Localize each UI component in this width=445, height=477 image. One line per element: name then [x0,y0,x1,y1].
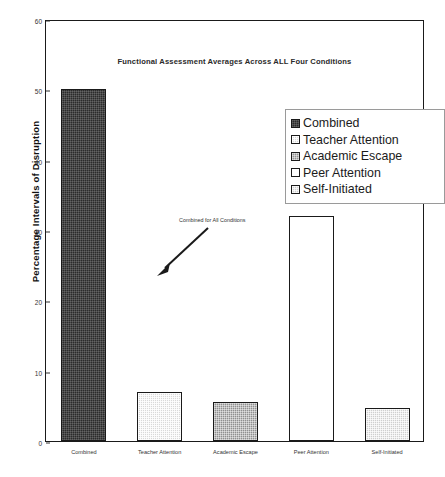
legend-item: Academic Escape [291,148,438,165]
plot-area: Functional Assessment Averages Across AL… [45,20,424,442]
legend-swatch-icon [291,185,300,194]
bar-teacher-attention [137,392,182,441]
legend-item-label: Peer Attention [303,167,381,179]
bar-combined [61,89,106,441]
y-axis-title: Percentage Intervals of Disruption [30,107,41,297]
y-axis-tick-label: 30 [35,229,46,236]
y-axis-tick-label: 0 [38,440,46,447]
y-axis-tick-label: 10 [35,369,46,376]
legend-item: Teacher Attention [291,132,438,149]
legend-item: Self-Initiated [291,181,438,198]
x-axis-tick-label: Teacher Attention [138,443,181,455]
legend-item-label: Teacher Attention [303,134,399,146]
y-axis-tick-label: 60 [35,18,46,25]
bar-academic-escape [213,402,258,441]
y-axis-tick-label: 40 [35,158,46,165]
legend-item: Peer Attention [291,165,438,182]
chart-legend: CombinedTeacher AttentionAcademic Escape… [285,109,445,204]
legend-item-label: Combined [303,117,359,129]
annotation-label: Combined for All Conditions [179,217,246,223]
y-axis-tick-label: 50 [35,88,46,95]
legend-swatch-icon [291,168,300,177]
legend-swatch-icon [291,152,300,161]
y-axis-tick-mark [46,443,50,444]
x-axis-tick-label: Combined [71,443,97,455]
legend-item: Combined [291,115,438,132]
legend-swatch-icon [291,119,300,128]
bar-series: CombinedTeacher AttentionAcademic Escape… [46,21,423,441]
legend-swatch-icon [291,135,300,144]
x-axis-tick-label: Peer Attention [294,443,329,455]
bar-self-initiated [365,408,410,441]
x-axis-tick-label: Academic Escape [213,443,258,455]
x-axis-tick-label: Self-Initiated [372,443,403,455]
legend-item-label: Academic Escape [303,150,402,162]
y-axis-tick-label: 20 [35,299,46,306]
legend-item-label: Self-Initiated [303,183,372,195]
bar-peer-attention [289,216,334,441]
annotation-arrow-icon [154,226,210,276]
